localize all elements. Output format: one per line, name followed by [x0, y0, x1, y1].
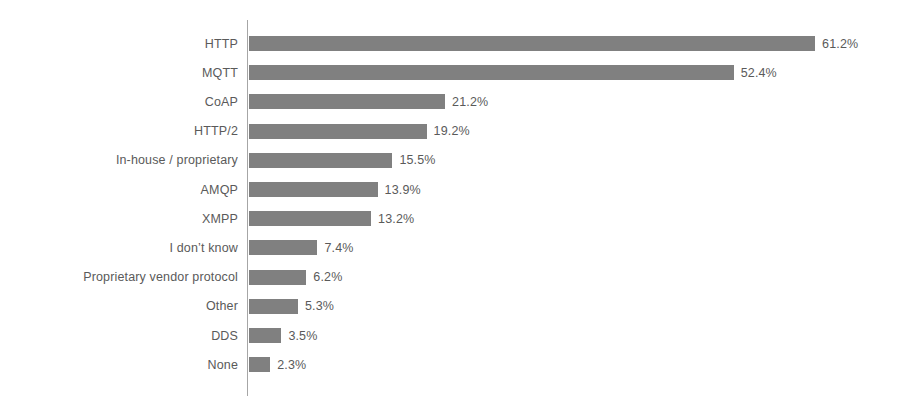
bar — [249, 153, 392, 168]
bar-row: In-house / proprietary 15.5% — [0, 146, 910, 175]
bar-value-label: 13.2% — [378, 212, 414, 226]
bar — [249, 65, 734, 80]
category-label: XMPP — [0, 212, 238, 226]
category-label: MQTT — [0, 66, 238, 80]
plot-area: HTTP 61.2% MQTT 52.4% CoAP 21.2% HTTP/2 — [0, 20, 910, 396]
category-label: Other — [0, 299, 238, 313]
bar-row: None 2.3% — [0, 350, 910, 379]
bar-row: DDS 3.5% — [0, 321, 910, 350]
category-label: None — [0, 358, 238, 372]
category-label: Proprietary vendor protocol — [0, 270, 238, 284]
category-label: DDS — [0, 329, 238, 343]
bar-row: CoAP 21.2% — [0, 87, 910, 116]
bar-group: 3.5% — [249, 328, 317, 343]
bar-value-label: 52.4% — [741, 66, 777, 80]
bar-row: AMQP 13.9% — [0, 175, 910, 204]
bar-group: 5.3% — [249, 299, 334, 314]
bar-group: 6.2% — [249, 270, 342, 285]
bar-value-label: 3.5% — [288, 329, 317, 343]
category-label: I don’t know — [0, 241, 238, 255]
bar-row: MQTT 52.4% — [0, 58, 910, 87]
bar-row: XMPP 13.2% — [0, 204, 910, 233]
bar-row: Proprietary vendor protocol 6.2% — [0, 263, 910, 292]
bar-row: HTTP/2 19.2% — [0, 117, 910, 146]
bar — [249, 124, 427, 139]
bar-group: 2.3% — [249, 357, 306, 372]
bar-group: 7.4% — [249, 240, 354, 255]
category-label: CoAP — [0, 95, 238, 109]
bar-group: 13.2% — [249, 211, 414, 226]
bar-group: 19.2% — [249, 124, 470, 139]
bar-row: HTTP 61.2% — [0, 29, 910, 58]
category-label: HTTP — [0, 37, 238, 51]
bar-group: 13.9% — [249, 182, 421, 197]
bar — [249, 299, 298, 314]
bar-chart: HTTP 61.2% MQTT 52.4% CoAP 21.2% HTTP/2 — [0, 0, 910, 419]
bar — [249, 94, 445, 109]
bar-group: 52.4% — [249, 65, 777, 80]
bar — [249, 270, 306, 285]
bar — [249, 240, 317, 255]
category-label: HTTP/2 — [0, 124, 238, 138]
bar-value-label: 19.2% — [434, 124, 470, 138]
category-label: AMQP — [0, 183, 238, 197]
category-label: In-house / proprietary — [0, 153, 238, 167]
bar-value-label: 5.3% — [305, 299, 334, 313]
bar-group: 15.5% — [249, 153, 436, 168]
bar-value-label: 2.3% — [277, 358, 306, 372]
bar — [249, 36, 815, 51]
bar-row: I don’t know 7.4% — [0, 233, 910, 262]
bar — [249, 328, 281, 343]
bar-value-label: 7.4% — [324, 241, 353, 255]
bar-value-label: 61.2% — [822, 37, 858, 51]
bar-group: 21.2% — [249, 94, 488, 109]
bar-row: Other 5.3% — [0, 292, 910, 321]
bar — [249, 182, 378, 197]
bar-value-label: 21.2% — [452, 95, 488, 109]
bar-value-label: 6.2% — [313, 270, 342, 284]
bar-value-label: 13.9% — [385, 183, 421, 197]
bar-group: 61.2% — [249, 36, 858, 51]
bar — [249, 211, 371, 226]
bar — [249, 357, 270, 372]
bar-value-label: 15.5% — [399, 153, 435, 167]
